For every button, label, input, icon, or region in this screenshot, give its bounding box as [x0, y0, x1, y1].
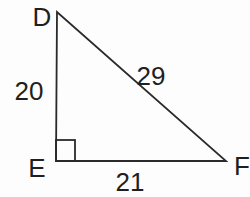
side-length-hypotenuse-df: 29 — [137, 61, 166, 91]
right-triangle-diagram: D E F 20 29 21 — [0, 0, 250, 197]
vertex-label-f: F — [234, 151, 250, 181]
side-length-left-de: 20 — [15, 76, 44, 106]
right-angle-marker — [56, 140, 75, 161]
side-length-bottom-ef: 21 — [116, 167, 145, 197]
vertex-label-d: D — [33, 2, 52, 32]
triangle-figure-svg: D E F 20 29 21 — [0, 0, 250, 197]
vertex-label-e: E — [28, 153, 45, 183]
